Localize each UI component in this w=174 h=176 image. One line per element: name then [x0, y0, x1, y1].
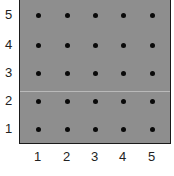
grid-dot	[36, 99, 41, 104]
grid-dot	[121, 99, 126, 104]
grid-dot	[93, 127, 98, 132]
grid-dot	[121, 127, 126, 132]
grid-dot	[93, 71, 98, 76]
grid-dot	[150, 13, 155, 18]
grid-dot	[150, 43, 155, 48]
grid-dot	[150, 99, 155, 104]
grid-dot	[65, 99, 70, 104]
grid-dot	[65, 13, 70, 18]
x-label-2: 2	[63, 150, 70, 163]
grid-dot	[93, 99, 98, 104]
y-label-4: 4	[5, 38, 12, 51]
grid-dot	[36, 71, 41, 76]
grid-dot	[36, 43, 41, 48]
grid-dot	[121, 13, 126, 18]
board-seam-line	[20, 91, 170, 92]
grid-dot	[93, 13, 98, 18]
grid-dot	[121, 71, 126, 76]
x-label-4: 4	[119, 150, 126, 163]
grid-dot	[36, 13, 41, 18]
grid-dot	[150, 127, 155, 132]
grid-dot	[150, 71, 155, 76]
x-label-1: 1	[34, 150, 41, 163]
x-label-5: 5	[148, 150, 155, 163]
x-label-3: 3	[91, 150, 98, 163]
y-label-3: 3	[5, 66, 12, 79]
grid-dot	[121, 43, 126, 48]
y-label-2: 2	[5, 94, 12, 107]
y-label-1: 1	[5, 122, 12, 135]
y-label-5: 5	[5, 8, 12, 21]
grid-dot	[36, 127, 41, 132]
grid-dot	[65, 43, 70, 48]
grid-dot	[93, 43, 98, 48]
grid-dot	[65, 71, 70, 76]
grid-dot	[65, 127, 70, 132]
